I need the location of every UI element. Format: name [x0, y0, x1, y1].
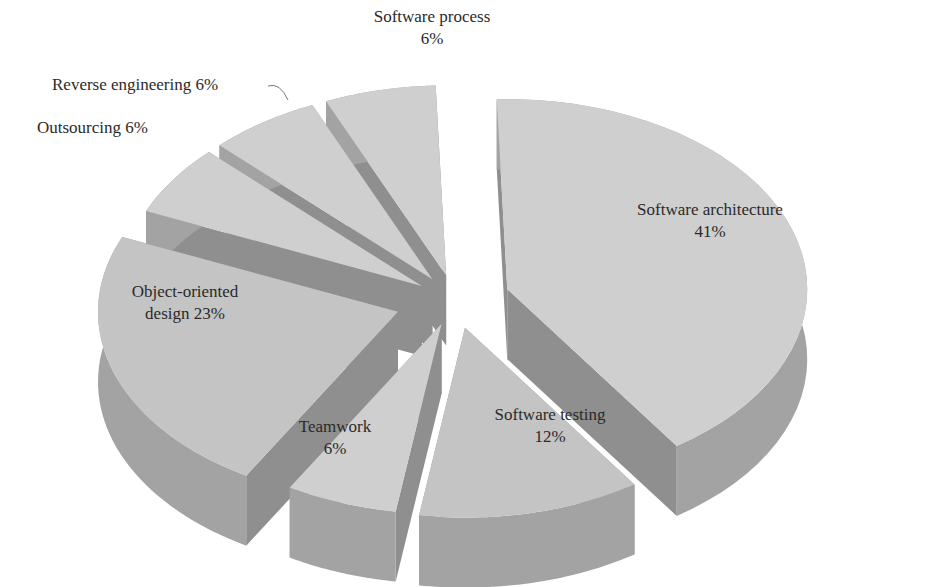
label-software-architecture: Software architecture 41% [610, 199, 810, 243]
leader-line [268, 85, 288, 100]
label-software-architecture-value: 41% [610, 221, 810, 243]
label-software-architecture-name: Software architecture [610, 199, 810, 221]
label-object-oriented-name: Object-oriented [95, 281, 275, 303]
label-outsourcing-text: Outsourcing 6% [37, 118, 148, 137]
pie-slices [98, 85, 807, 587]
label-object-oriented-value: design 23% [95, 303, 275, 325]
label-software-testing: Software testing 12% [460, 404, 640, 448]
label-software-testing-name: Software testing [460, 404, 640, 426]
label-software-process-value: 6% [342, 28, 522, 50]
label-software-process-name: Software process [342, 6, 522, 28]
label-software-process: Software process 6% [342, 6, 522, 50]
label-software-testing-value: 12% [460, 426, 640, 448]
label-outsourcing: Outsourcing 6% [37, 117, 148, 139]
label-teamwork-value: 6% [270, 438, 400, 460]
label-reverse-engineering-text: Reverse engineering 6% [52, 75, 218, 94]
label-object-oriented-design: Object-oriented design 23% [95, 281, 275, 325]
label-teamwork-name: Teamwork [270, 416, 400, 438]
label-reverse-engineering: Reverse engineering 6% [52, 74, 218, 96]
label-teamwork: Teamwork 6% [270, 416, 400, 460]
